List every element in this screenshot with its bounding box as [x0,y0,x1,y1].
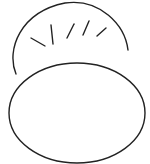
tick-mark [83,21,89,35]
tick-mark [67,24,74,38]
tick-mark [97,28,106,36]
sketch-drawing [0,0,150,164]
tick-marks [31,21,106,46]
tick-mark [51,25,53,44]
sketch-canvas [0,0,150,164]
tick-mark [31,38,45,46]
front-oval-outline [9,63,145,163]
